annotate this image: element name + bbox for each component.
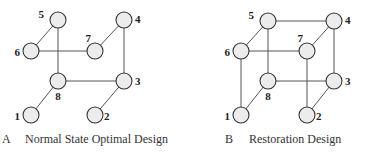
node-label-1: 1 bbox=[15, 110, 21, 122]
node-6 bbox=[233, 43, 249, 59]
node-label-6: 6 bbox=[225, 46, 231, 58]
node-label-5: 5 bbox=[249, 9, 255, 21]
node-1 bbox=[233, 107, 249, 123]
node-label-4: 4 bbox=[345, 14, 351, 26]
node-label-3: 3 bbox=[135, 75, 141, 87]
node-3 bbox=[116, 73, 132, 89]
node-label-7: 7 bbox=[298, 32, 304, 44]
node-label-2: 2 bbox=[104, 110, 110, 122]
diagram-a: 12345678 bbox=[15, 8, 142, 123]
node-2 bbox=[87, 107, 103, 123]
node-1 bbox=[23, 107, 39, 123]
node-label-5: 5 bbox=[39, 8, 45, 20]
node-7 bbox=[87, 43, 103, 59]
node-3 bbox=[326, 73, 342, 89]
node-label-1: 1 bbox=[225, 110, 231, 122]
diagram-a-caption: Normal State Optimal Design bbox=[25, 132, 168, 146]
node-2 bbox=[299, 107, 315, 123]
node-label-2: 2 bbox=[316, 110, 322, 122]
node-4 bbox=[326, 13, 342, 29]
network-diagrams: 12345678 12345678 A Normal State Optimal… bbox=[0, 0, 365, 153]
node-7 bbox=[299, 43, 315, 59]
diagram-b-caption: Restoration Design bbox=[249, 132, 341, 146]
node-label-3: 3 bbox=[345, 75, 351, 87]
node-label-8: 8 bbox=[55, 90, 61, 102]
node-6 bbox=[23, 43, 39, 59]
node-8 bbox=[260, 73, 276, 89]
diagram-b: 12345678 bbox=[225, 9, 352, 123]
node-4 bbox=[116, 12, 132, 28]
node-label-8: 8 bbox=[265, 90, 271, 102]
node-label-6: 6 bbox=[15, 46, 21, 58]
node-5 bbox=[260, 13, 276, 29]
node-8 bbox=[50, 73, 66, 89]
diagram-b-letter: B bbox=[225, 132, 233, 146]
node-label-4: 4 bbox=[135, 13, 141, 25]
node-5 bbox=[50, 12, 66, 28]
node-label-7: 7 bbox=[86, 32, 92, 44]
diagram-a-letter: A bbox=[2, 132, 11, 146]
